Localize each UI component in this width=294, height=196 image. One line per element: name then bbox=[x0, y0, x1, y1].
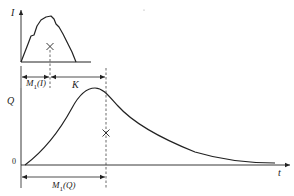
intensity-centroid-marker bbox=[47, 43, 54, 50]
time-axis-label: t bbox=[278, 168, 281, 178]
intensity-axis-label: I bbox=[11, 8, 14, 18]
origin-label: 0 bbox=[12, 158, 16, 166]
speck bbox=[143, 9, 144, 10]
m1-q-label: M1(Q) bbox=[52, 181, 76, 193]
diagram-canvas bbox=[0, 0, 294, 196]
m1-i-label-main: M bbox=[26, 78, 34, 88]
hydrograph-curve bbox=[25, 88, 275, 165]
m1-i-label: M1(I) bbox=[26, 79, 46, 91]
k-label: K bbox=[72, 80, 79, 90]
discharge-centroid-marker bbox=[103, 130, 110, 137]
m1-q-label-arg: (Q) bbox=[63, 180, 76, 190]
hydrograph-diagram: I M1(I) K Q 0 t M1(Q) bbox=[0, 0, 294, 196]
m1-q-label-main: M bbox=[52, 180, 60, 190]
hyetograph-curve bbox=[21, 16, 76, 62]
m1-i-label-arg: (I) bbox=[37, 78, 46, 88]
discharge-axis-label: Q bbox=[7, 96, 14, 106]
